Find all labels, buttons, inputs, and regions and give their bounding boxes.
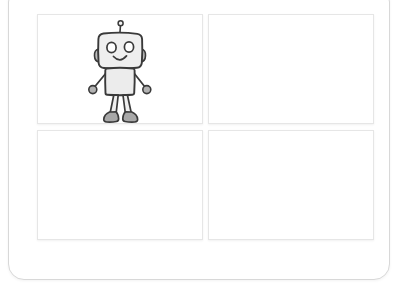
head — [98, 33, 142, 69]
robot-icon — [84, 16, 156, 124]
right-eye — [124, 42, 133, 52]
panel-bottom-left-content — [38, 131, 202, 239]
rounded-card — [8, 0, 390, 280]
panel-bottom-right-content — [209, 131, 373, 239]
panel-top-right-content — [209, 15, 373, 123]
left-hand — [89, 86, 97, 94]
right-hand — [143, 86, 151, 94]
right-foot — [123, 112, 138, 122]
panel-bottom-right[interactable] — [208, 130, 374, 240]
panel-grid — [37, 14, 374, 240]
robot-illustration — [84, 16, 156, 124]
antenna-ball — [118, 21, 123, 26]
panel-top-left-content — [38, 15, 202, 123]
screenshot-stage — [0, 0, 402, 293]
panel-bottom-left[interactable] — [37, 130, 203, 240]
panel-top-left[interactable] — [37, 14, 203, 124]
torso — [105, 68, 135, 95]
panel-top-right[interactable] — [208, 14, 374, 124]
left-eye — [107, 42, 116, 52]
left-foot — [104, 112, 119, 122]
